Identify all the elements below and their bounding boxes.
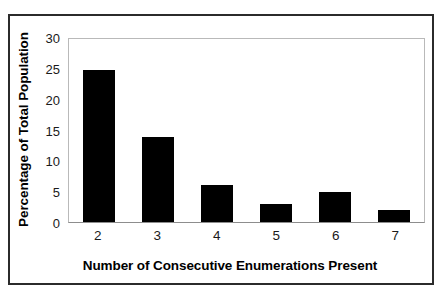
bar bbox=[378, 210, 410, 222]
x-tick-label: 4 bbox=[187, 228, 247, 243]
bar bbox=[201, 185, 233, 222]
x-tick-label: 3 bbox=[128, 228, 188, 243]
bar-slot bbox=[187, 39, 246, 222]
plot-area bbox=[68, 38, 425, 223]
bar-slot bbox=[365, 39, 424, 222]
bar bbox=[83, 70, 115, 223]
bar-slot bbox=[128, 39, 187, 222]
bar bbox=[142, 137, 174, 222]
x-tick-label: 7 bbox=[366, 228, 426, 243]
x-tick-label: 6 bbox=[306, 228, 366, 243]
bar bbox=[319, 192, 351, 223]
x-axis-tick-labels: 2 3 4 5 6 7 bbox=[68, 228, 425, 243]
bar bbox=[260, 204, 292, 222]
bar-slot bbox=[69, 39, 128, 222]
y-axis-title: Percentage of Total Population bbox=[16, 15, 31, 245]
bar-slot bbox=[306, 39, 365, 222]
bar-slot bbox=[247, 39, 306, 222]
x-tick-label: 2 bbox=[68, 228, 128, 243]
bar-series bbox=[69, 39, 424, 222]
bar-chart-figure: Percentage of Total Population 30 25 20 … bbox=[0, 0, 448, 296]
x-tick-label: 5 bbox=[247, 228, 307, 243]
x-axis-title: Number of Consecutive Enumerations Prese… bbox=[40, 258, 420, 273]
